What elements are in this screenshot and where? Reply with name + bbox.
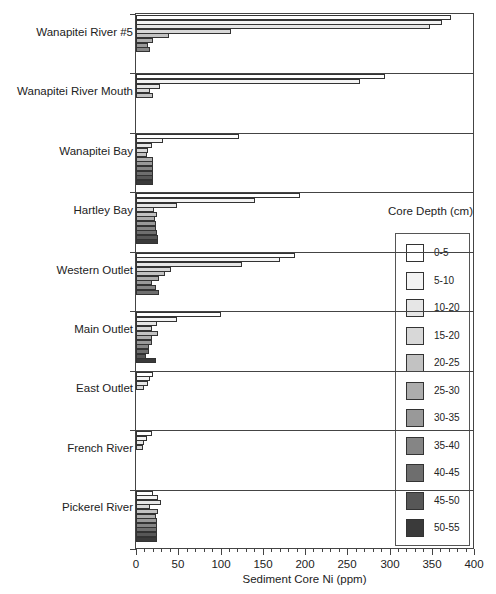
- legend-swatch: [406, 244, 424, 262]
- x-tick-label: 200: [295, 558, 314, 570]
- bar: [136, 93, 153, 98]
- panel-separator: [130, 371, 474, 372]
- x-minor-tick: [449, 549, 450, 552]
- site-label: Wanapitei River #5: [36, 26, 133, 38]
- bar: [136, 537, 157, 542]
- x-minor-tick: [406, 549, 407, 552]
- site-label: Main Outlet: [74, 323, 133, 335]
- site-label: Pickerel River: [62, 501, 133, 513]
- x-minor-tick: [280, 549, 281, 552]
- x-minor-tick: [423, 549, 424, 552]
- legend-swatch: [406, 354, 424, 372]
- x-major-tick: [305, 549, 306, 555]
- x-major-tick: [432, 549, 433, 555]
- x-minor-tick: [339, 549, 340, 552]
- x-minor-tick: [153, 549, 154, 552]
- x-minor-tick: [237, 549, 238, 552]
- x-minor-tick: [356, 549, 357, 552]
- site-label: Wanapitei River Mouth: [17, 85, 133, 97]
- legend-title: Core Depth (cm): [388, 205, 473, 217]
- y-tick: [130, 311, 136, 312]
- bar: [136, 47, 150, 52]
- legend-swatch: [406, 409, 424, 427]
- legend-swatch: [406, 492, 424, 510]
- x-tick-label: 100: [211, 558, 230, 570]
- legend-swatch: [406, 382, 424, 400]
- legend-label: 40-45: [434, 467, 460, 478]
- y-tick: [130, 192, 136, 193]
- bar: [136, 385, 144, 390]
- legend-label: 25-30: [434, 385, 460, 396]
- legend-swatch: [406, 464, 424, 482]
- x-minor-tick: [373, 549, 374, 552]
- x-minor-tick: [229, 549, 230, 552]
- bar: [136, 358, 156, 363]
- y-tick: [130, 549, 136, 550]
- x-minor-tick: [144, 549, 145, 552]
- legend-swatch: [406, 519, 424, 537]
- x-major-tick: [347, 549, 348, 555]
- panel-separator: [130, 490, 474, 491]
- legend-label: 15-20: [434, 330, 460, 341]
- x-minor-tick: [297, 549, 298, 552]
- bar: [136, 79, 360, 84]
- x-major-tick: [390, 549, 391, 555]
- x-minor-tick: [195, 549, 196, 552]
- y-tick: [130, 252, 136, 253]
- x-tick-label: 150: [253, 558, 272, 570]
- y-tick: [130, 490, 136, 491]
- y-tick: [130, 133, 136, 134]
- legend-swatch: [406, 437, 424, 455]
- x-tick-label: 300: [380, 558, 399, 570]
- x-minor-tick: [440, 549, 441, 552]
- x-minor-tick: [288, 549, 289, 552]
- site-label: French River: [67, 442, 133, 454]
- panel-separator: [130, 133, 474, 134]
- x-tick-label: 0: [133, 558, 139, 570]
- x-tick-label: 400: [464, 558, 483, 570]
- x-minor-tick: [313, 549, 314, 552]
- site-label: Wanapitei Bay: [59, 145, 133, 157]
- bar: [136, 239, 158, 244]
- x-tick-label: 250: [337, 558, 356, 570]
- bar: [136, 180, 153, 185]
- legend-label: 30-35: [434, 412, 460, 423]
- x-minor-tick: [364, 549, 365, 552]
- x-minor-tick: [398, 549, 399, 552]
- x-minor-tick: [271, 549, 272, 552]
- x-axis-label: Sediment Core Ni (ppm): [135, 573, 474, 585]
- x-minor-tick: [381, 549, 382, 552]
- x-major-tick: [221, 549, 222, 555]
- x-minor-tick: [204, 549, 205, 552]
- legend-swatch: [406, 299, 424, 317]
- y-tick: [130, 73, 136, 74]
- x-minor-tick: [187, 549, 188, 552]
- x-minor-tick: [170, 549, 171, 552]
- x-minor-tick: [415, 549, 416, 552]
- site-label: Hartley Bay: [74, 204, 133, 216]
- legend-label: 5-10: [434, 275, 454, 286]
- panel-separator: [130, 252, 474, 253]
- y-tick: [130, 14, 136, 15]
- x-tick-label: 50: [172, 558, 185, 570]
- x-minor-tick: [212, 549, 213, 552]
- x-major-tick: [263, 549, 264, 555]
- panel-separator: [130, 192, 474, 193]
- panel-separator: [130, 311, 474, 312]
- site-label: East Outlet: [76, 382, 133, 394]
- panel-separator: [130, 430, 474, 431]
- site-label: Western Outlet: [57, 264, 134, 276]
- legend-label: 20-25: [434, 357, 460, 368]
- x-major-tick: [178, 549, 179, 555]
- bar: [136, 445, 143, 450]
- x-minor-tick: [322, 549, 323, 552]
- x-tick-label: 350: [422, 558, 441, 570]
- x-minor-tick: [457, 549, 458, 552]
- legend-label: 45-50: [434, 495, 460, 506]
- y-tick: [130, 371, 136, 372]
- x-major-tick: [136, 549, 137, 555]
- bar: [136, 290, 159, 295]
- x-minor-tick: [161, 549, 162, 552]
- legend-label: 35-40: [434, 440, 460, 451]
- x-minor-tick: [254, 549, 255, 552]
